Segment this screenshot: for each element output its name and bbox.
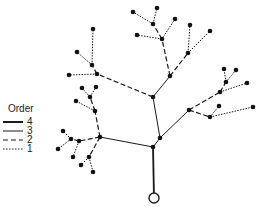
legend-label: 1 bbox=[27, 144, 33, 154]
stream-segment-order-2 bbox=[189, 110, 210, 117]
tree-node bbox=[131, 10, 136, 15]
stream-segment-order-2 bbox=[97, 74, 153, 97]
tree-node bbox=[251, 105, 256, 110]
solid-thin-line-icon bbox=[3, 128, 25, 134]
stream-segment-order-1 bbox=[73, 141, 79, 157]
tree-node bbox=[91, 170, 96, 175]
stream-segment-order-1 bbox=[77, 52, 92, 65]
tree-node bbox=[160, 37, 165, 42]
dotted-line-icon bbox=[3, 146, 25, 152]
tree-node bbox=[218, 90, 223, 95]
tree-node bbox=[69, 137, 74, 142]
tree-node bbox=[95, 72, 100, 77]
stream-segment-order-3 bbox=[153, 76, 170, 97]
tree-node bbox=[151, 145, 156, 150]
solid-thick-line-icon bbox=[3, 119, 25, 125]
tree-node bbox=[135, 33, 140, 38]
stream-segment-order-1 bbox=[226, 70, 236, 82]
tree-node bbox=[71, 155, 76, 160]
stream-segment-order-2 bbox=[162, 39, 170, 76]
tree-node bbox=[56, 147, 61, 152]
tree-node bbox=[173, 17, 178, 22]
tree-node bbox=[168, 74, 173, 79]
tree-edges bbox=[58, 8, 253, 198]
tree-node bbox=[224, 80, 229, 85]
tree-node bbox=[151, 95, 156, 100]
tree-node bbox=[222, 67, 227, 72]
tree-node bbox=[94, 85, 99, 90]
tree-node bbox=[79, 163, 84, 168]
tree-node bbox=[61, 129, 66, 134]
stream-segment-order-3 bbox=[160, 110, 189, 138]
tree-node bbox=[158, 136, 163, 141]
stream-segment-order-1 bbox=[162, 19, 175, 39]
stream-order-tree bbox=[0, 0, 266, 214]
stream-segment-order-2 bbox=[89, 137, 100, 157]
outlet-node bbox=[149, 193, 159, 203]
tree-node bbox=[75, 50, 80, 55]
tree-node bbox=[234, 68, 239, 73]
stream-segment-order-1 bbox=[210, 107, 253, 117]
stream-segment-order-1 bbox=[92, 29, 93, 65]
tree-node bbox=[77, 139, 82, 144]
tree-node bbox=[245, 81, 250, 86]
tree-node bbox=[188, 23, 193, 28]
stream-segment-order-2 bbox=[79, 137, 100, 141]
tree-node bbox=[91, 27, 96, 32]
tree-node bbox=[208, 29, 213, 34]
tree-node bbox=[217, 104, 222, 109]
stream-segment-order-1 bbox=[69, 74, 97, 75]
stream-segment-order-1 bbox=[188, 31, 210, 53]
tree-node bbox=[80, 86, 85, 91]
stream-segment-order-2 bbox=[153, 24, 162, 39]
legend-item-order-1: 1 bbox=[3, 144, 34, 153]
stream-segment-order-2 bbox=[189, 92, 220, 110]
legend-title: Order bbox=[8, 104, 34, 114]
stream-segment-order-1 bbox=[188, 25, 190, 53]
stream-segment-order-3 bbox=[153, 97, 160, 138]
stream-segment-order-2 bbox=[170, 53, 188, 76]
stream-segment-order-1 bbox=[89, 157, 93, 172]
tree-node bbox=[90, 63, 95, 68]
stream-segment-order-1 bbox=[153, 8, 157, 24]
tree-node bbox=[151, 22, 156, 27]
tree-node bbox=[98, 135, 103, 140]
stream-segment-order-2 bbox=[95, 111, 100, 137]
tree-node bbox=[187, 108, 192, 113]
tree-node bbox=[88, 95, 93, 100]
stream-segment-order-3 bbox=[100, 137, 153, 147]
stream-segment-order-1 bbox=[133, 12, 153, 24]
tree-node bbox=[74, 99, 79, 104]
tree-node bbox=[186, 51, 191, 56]
stream-segment-order-4 bbox=[153, 147, 154, 198]
stream-segment-order-1 bbox=[137, 35, 162, 39]
dashed-line-icon bbox=[3, 137, 25, 143]
tree-node bbox=[208, 115, 213, 120]
legend: Order 4 3 2 1 bbox=[3, 104, 34, 153]
tree-node bbox=[93, 109, 98, 114]
tree-node bbox=[87, 155, 92, 160]
stream-segment-order-1 bbox=[58, 139, 71, 149]
tree-node bbox=[155, 6, 160, 11]
tree-node bbox=[67, 73, 72, 78]
